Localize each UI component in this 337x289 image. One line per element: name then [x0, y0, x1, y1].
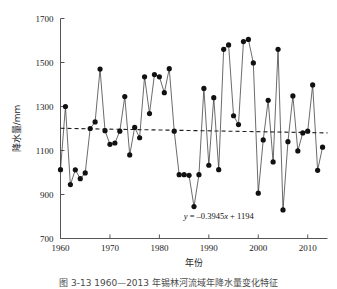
- data-point: [261, 137, 266, 142]
- data-point: [310, 82, 315, 87]
- data-point: [68, 182, 73, 187]
- data-point: [102, 128, 107, 133]
- data-point: [241, 39, 246, 44]
- data-point: [73, 167, 78, 172]
- data-point: [285, 139, 290, 144]
- data-series-line: [61, 39, 323, 210]
- data-point: [167, 66, 172, 71]
- data-point: [226, 42, 231, 47]
- data-point: [177, 172, 182, 177]
- x-axis-title: 年份: [185, 257, 203, 268]
- y-tick-label-1100: 1100: [36, 146, 54, 156]
- data-point: [137, 135, 142, 140]
- data-point: [236, 122, 241, 127]
- data-point: [216, 167, 221, 172]
- x-tick-label-1970: 1970: [101, 243, 120, 253]
- data-point: [83, 170, 88, 175]
- data-point: [315, 168, 320, 173]
- data-point: [142, 74, 147, 79]
- data-point: [132, 125, 137, 130]
- data-point: [122, 94, 127, 99]
- data-point: [117, 129, 122, 134]
- trend-equation: y = –0.3945x + 1194: [183, 211, 255, 221]
- x-tick-label-1960: 1960: [52, 243, 71, 253]
- data-point: [201, 86, 206, 91]
- data-point: [211, 95, 216, 100]
- data-point: [251, 60, 256, 65]
- data-point: [295, 148, 300, 153]
- y-tick-label-900: 900: [40, 190, 54, 200]
- data-point: [127, 152, 132, 157]
- data-point: [157, 74, 162, 79]
- data-point: [206, 163, 211, 168]
- data-point: [320, 145, 325, 150]
- data-point: [305, 129, 310, 134]
- data-point: [300, 130, 305, 135]
- data-point: [246, 37, 251, 42]
- data-point: [231, 113, 236, 118]
- trend-line: [61, 128, 328, 133]
- data-point: [221, 47, 226, 52]
- data-point: [112, 140, 117, 145]
- data-point: [58, 167, 63, 172]
- data-point: [63, 104, 68, 109]
- data-point: [147, 111, 152, 116]
- data-point: [275, 47, 280, 52]
- data-point: [191, 204, 196, 209]
- data-point: [88, 126, 93, 131]
- y-tick-label-1300: 1300: [36, 102, 55, 112]
- data-point: [186, 173, 191, 178]
- y-tick-label-1500: 1500: [36, 58, 55, 68]
- x-tick-label-2010: 2010: [299, 243, 318, 253]
- x-tick-label-1980: 1980: [150, 243, 169, 253]
- data-point: [256, 191, 261, 196]
- data-point: [290, 93, 295, 98]
- precipitation-line-chart: 7009001100130015001700196019701980199020…: [0, 0, 337, 289]
- data-point: [271, 159, 276, 164]
- data-point: [152, 72, 157, 77]
- data-point: [162, 90, 167, 95]
- y-tick-label-1700: 1700: [36, 14, 55, 24]
- figure-container: 7009001100130015001700196019701980199020…: [0, 0, 337, 289]
- data-point: [78, 176, 83, 181]
- figure-caption: 图 3-13 1960—2013 年锡林河流域年降水量变化特征: [0, 277, 337, 289]
- data-point: [182, 172, 187, 177]
- data-point: [280, 207, 285, 212]
- data-point: [196, 172, 201, 177]
- x-tick-label-1990: 1990: [200, 243, 219, 253]
- data-point: [107, 142, 112, 147]
- data-point: [97, 67, 102, 72]
- y-axis-title: 降水量/mm: [11, 105, 22, 153]
- data-point: [266, 98, 271, 103]
- data-point: [172, 129, 177, 134]
- x-tick-label-2000: 2000: [249, 243, 268, 253]
- data-point: [93, 119, 98, 124]
